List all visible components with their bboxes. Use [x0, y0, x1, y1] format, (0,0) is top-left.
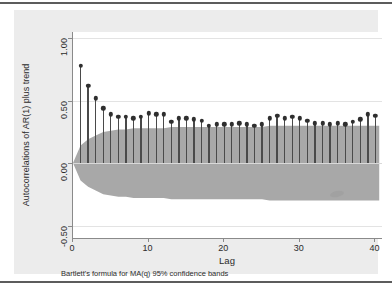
acf-spike: [292, 117, 293, 163]
y-axis-tick-label: 1.00: [59, 38, 69, 56]
acf-spike: [125, 117, 126, 163]
acf-spike: [360, 119, 361, 163]
acf-spike: [95, 98, 96, 163]
acf-spike: [231, 124, 232, 163]
acf-spike: [201, 121, 202, 163]
x-axis-tick: [72, 238, 73, 242]
acf-spike: [329, 124, 330, 163]
acf-spike: [103, 108, 104, 163]
gridline-y: [73, 38, 382, 39]
acf-spike: [140, 117, 141, 163]
acf-spike: [337, 123, 338, 163]
acf-spike: [216, 124, 217, 163]
x-axis-tick: [299, 238, 300, 242]
acf-spike: [284, 118, 285, 163]
y-axis-tick-label: 0.50: [59, 101, 69, 119]
acf-spike: [163, 114, 164, 163]
window-top-border: [0, 2, 392, 4]
acf-spike: [269, 118, 270, 163]
acf-spike: [118, 117, 119, 163]
acf-spike: [208, 126, 209, 163]
acf-spike: [276, 116, 277, 163]
graph-canvas: Autocorrelations of AR(1) plus trend 1.0…: [14, 10, 378, 274]
x-axis-tick: [374, 238, 375, 242]
acf-spike: [345, 124, 346, 163]
x-axis-line: [72, 238, 382, 239]
x-axis-tick-label: 20: [218, 243, 228, 253]
acf-spike: [156, 114, 157, 163]
zero-reference-line: [73, 163, 382, 164]
x-axis-tick: [223, 238, 224, 242]
acf-spike: [307, 121, 308, 163]
acf-spike: [178, 118, 179, 163]
acf-spike: [186, 118, 187, 163]
x-axis-title: Lag: [219, 255, 235, 266]
x-axis-tick-label: 10: [143, 243, 153, 253]
acf-spike: [352, 122, 353, 163]
acf-spike: [322, 123, 323, 163]
y-axis-tick-label: 0.00: [59, 163, 69, 181]
acf-spike: [110, 114, 111, 163]
acf-spike: [193, 119, 194, 163]
x-axis-tick-label: 30: [294, 243, 304, 253]
acf-spike: [171, 122, 172, 163]
screenshot-root: Autocorrelations of AR(1) plus trend 1.0…: [0, 0, 392, 292]
x-axis-tick: [148, 238, 149, 242]
x-axis-tick-label: 40: [369, 243, 379, 253]
acf-spike: [261, 124, 262, 163]
acf-spike: [254, 126, 255, 163]
acf-spike: [314, 123, 315, 163]
x-axis-tick-label: 0: [69, 243, 74, 253]
acf-spike: [80, 66, 81, 163]
acf-spike: [299, 118, 300, 163]
plot-region[interactable]: [72, 32, 382, 238]
gridline-y: [73, 226, 382, 227]
acf-spike: [224, 124, 225, 163]
plot-inner: [73, 32, 382, 238]
acf-spike: [133, 118, 134, 163]
acf-spike: [148, 113, 149, 163]
gridline-y: [73, 101, 382, 102]
window-bottom-border: [0, 281, 392, 283]
y-axis-title: Autocorrelations of AR(1) plus trend: [21, 64, 31, 207]
acf-spike: [246, 124, 247, 163]
acf-spike: [375, 116, 376, 163]
chart-note: Bartlett's formula for MA(q) 95% confide…: [61, 269, 228, 278]
acf-spike: [87, 86, 88, 163]
acf-spike: [367, 114, 368, 163]
y-axis-tick-label: -0.50: [59, 226, 69, 247]
acf-spike: [239, 123, 240, 163]
